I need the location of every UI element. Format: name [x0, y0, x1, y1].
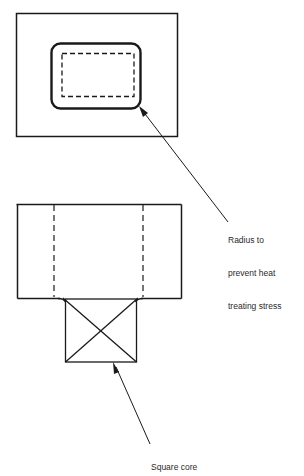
outer-rectangle	[17, 14, 178, 137]
radius-callout-label: Radius to prevent heat treating stress	[228, 213, 281, 323]
square-core-callout-line-1: Square core	[151, 462, 197, 473]
radius-callout-line-3: treating stress	[228, 301, 281, 312]
square-core-leader-line	[116, 367, 150, 444]
square-core-callout-label: Square core	[151, 440, 197, 476]
dashed-hidden-outline	[62, 54, 134, 97]
square-core-leader	[113, 362, 150, 444]
radius-callout-line-1: Radius to	[228, 235, 281, 246]
core-cross-b	[66, 298, 139, 362]
radius-callout-line-2: prevent heat	[228, 268, 281, 279]
arrowhead-icon	[113, 362, 119, 374]
front-view	[17, 205, 182, 363]
core-cross-a	[63, 298, 137, 362]
top-view	[17, 14, 178, 137]
